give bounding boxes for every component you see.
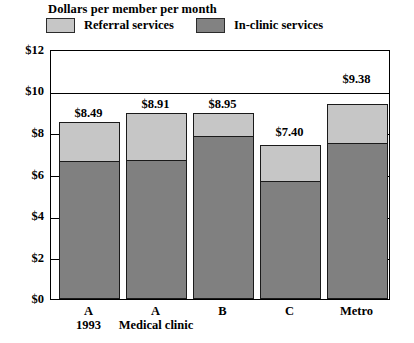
chart-legend: Referral services In-clinic services: [46, 18, 323, 33]
bar-segment-inclinic: [59, 162, 120, 299]
bar-a[interactable]: [126, 113, 187, 299]
bar-segment-inclinic: [260, 182, 321, 299]
plot-area: [50, 50, 390, 300]
bar-segment-referral: [327, 104, 388, 144]
x-axis-title: Medical clinic: [110, 318, 202, 333]
bar-segment-inclinic: [193, 137, 254, 300]
x-tick-label-c: C: [259, 304, 320, 319]
y-tick-label-10: $10: [10, 84, 44, 99]
x-tick-label-b: B: [192, 304, 253, 319]
chart-title: Dollars per member per month: [48, 2, 217, 17]
bar-segment-inclinic: [126, 161, 187, 299]
legend-item-referral: Referral services: [46, 18, 174, 33]
y-tick-label-8: $8: [10, 126, 44, 141]
bar-value-metro: $9.38: [326, 72, 387, 87]
legend-label-referral: Referral services: [84, 18, 174, 33]
y-tick-label-2: $2: [10, 251, 44, 266]
bar-value-b: $8.95: [192, 97, 253, 112]
bar-segment-referral: [59, 122, 120, 162]
gridline-10: [51, 93, 389, 94]
bar-c[interactable]: [260, 145, 321, 299]
y-tick-label-6: $6: [10, 168, 44, 183]
bar-value-c: $7.40: [259, 125, 320, 140]
bar-value-a-1993: $8.49: [58, 106, 119, 121]
plot-inner: [51, 51, 389, 299]
bar-segment-referral: [193, 113, 254, 137]
bar-value-a: $8.91: [125, 97, 186, 112]
legend-label-inclinic: In-clinic services: [234, 18, 323, 33]
bar-a-1993[interactable]: [59, 122, 120, 299]
legend-swatch-inclinic-icon: [196, 18, 225, 33]
legend-swatch-referral-icon: [46, 18, 75, 33]
y-tick-label-12: $12: [10, 43, 44, 58]
bar-segment-referral: [260, 145, 321, 183]
y-tick-label-4: $4: [10, 209, 44, 224]
legend-item-inclinic: In-clinic services: [196, 18, 323, 33]
chart-container: Dollars per member per month Referral se…: [0, 0, 414, 343]
bar-b[interactable]: [193, 113, 254, 300]
y-tick-label-0: $0: [10, 292, 44, 307]
x-tick-label-metro: Metro: [326, 304, 387, 319]
bar-metro[interactable]: [327, 104, 388, 299]
x-tick-label-a: A: [125, 304, 186, 319]
bar-segment-inclinic: [327, 144, 388, 299]
bar-segment-referral: [126, 113, 187, 161]
x-tick-label-a-1993: A: [58, 304, 119, 319]
